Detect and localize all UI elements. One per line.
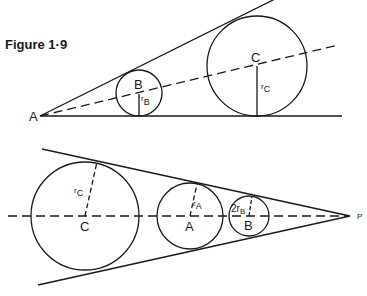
bottom-vertex-label: P [357, 212, 362, 221]
bottom-circle-c-label: C [80, 219, 89, 234]
top-bisector-dashed-line [40, 45, 338, 116]
top-circle-c-label: C [251, 50, 260, 65]
bottom-circle-b-label: B [244, 218, 253, 233]
top-angle-diagram [40, 0, 342, 116]
bottom-radius-c [85, 162, 97, 216]
bottom-cone-diagram [8, 149, 350, 285]
top-vertex-label: A [29, 109, 38, 124]
top-circle-b-label: B [134, 77, 143, 92]
top-radius-b-label: rB [141, 94, 150, 107]
bottom-circle-a-label: A [185, 219, 194, 234]
bottom-radius-a-label: rA [193, 199, 202, 211]
diagram-canvas: A B rB C rC C rC A rA B 2rB P [0, 0, 367, 296]
top-upper-tangent-line [40, 0, 277, 116]
bottom-radius-b [249, 196, 252, 216]
top-radius-c-label: rC [261, 82, 271, 94]
bottom-radius-b-label: 2rB [231, 203, 245, 216]
bottom-radius-c-label: rC [74, 186, 84, 198]
